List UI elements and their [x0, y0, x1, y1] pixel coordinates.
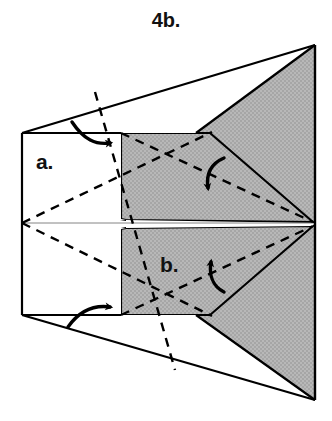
figure-canvas: 4b. a. b. [0, 0, 332, 421]
fold-label-b: b. [160, 253, 178, 277]
fold-label-a: a. [36, 150, 53, 174]
white-left-lower-panel [22, 226, 126, 315]
figure-title: 4b. [0, 9, 332, 32]
origami-diagram [0, 0, 332, 421]
